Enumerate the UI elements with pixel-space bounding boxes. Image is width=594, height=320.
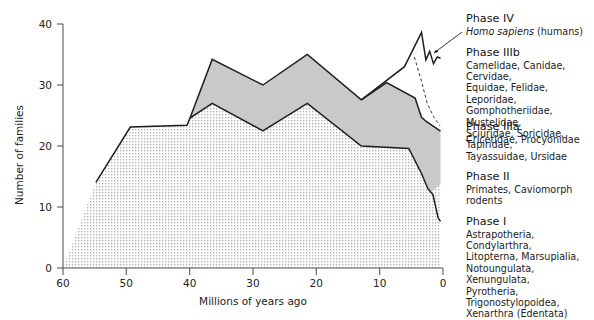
annotation-body: Homo sapiens (humans)	[466, 26, 583, 37]
annotation-body: Primates, Caviomorph rodents	[466, 184, 594, 207]
annotation-phase-iiia: Phase IIIa Cricetidae, Procyonidae	[466, 120, 580, 145]
species-italic: Homo sapiens	[466, 26, 534, 37]
annotation-heading: Phase II	[466, 170, 594, 184]
annotation-heading: Phase IV	[466, 12, 583, 26]
annotation-body: Camelidae, Canidae, Cervidae, Equidae, F…	[466, 60, 594, 163]
annotation-heading: Phase IIIb	[466, 46, 594, 60]
annotation-phase-iv: Phase IV Homo sapiens (humans)	[466, 12, 583, 37]
annotation-phase-ii: Phase II Primates, Caviomorph rodents	[466, 170, 594, 206]
annotation-phase-i: Phase I Astrapotheria, Condylarthra, Lit…	[466, 215, 594, 320]
annotation-heading: Phase I	[466, 215, 594, 229]
annotation-body: Cricetidae, Procyonidae	[466, 134, 580, 145]
annotation-body: Astrapotheria, Condylarthra, Litopterna,…	[466, 229, 594, 320]
annotation-heading: Phase IIIa	[466, 120, 580, 134]
